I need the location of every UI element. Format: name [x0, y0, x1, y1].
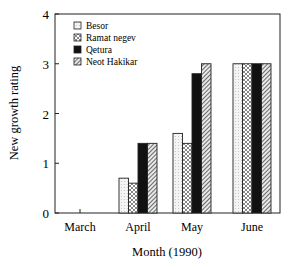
- legend: BesorRamat negevQeturaNeot Hakikar: [74, 21, 138, 67]
- legend-label: Neot Hakikar: [86, 57, 138, 67]
- y-tick-label: 3: [43, 57, 50, 72]
- bar-qetura: [192, 74, 202, 213]
- legend-label: Qetura: [86, 45, 113, 55]
- x-axis-title: Month (1990): [132, 245, 202, 259]
- y-tick-label: 4: [43, 7, 50, 22]
- bar-chart: 01234 MarchAprilMayJune BesorRamat negev…: [0, 0, 295, 267]
- bar-besor: [173, 133, 183, 213]
- bar-neot-hakikar: [148, 143, 158, 213]
- legend-swatch-icon: [74, 58, 81, 65]
- bar-ramat-negev: [129, 183, 139, 213]
- x-tick-label: April: [125, 220, 151, 234]
- bar-besor: [233, 64, 243, 213]
- legend-label: Ramat negev: [86, 33, 136, 43]
- y-axis-title: New growth rating: [7, 65, 21, 160]
- x-tick-label: March: [64, 220, 95, 234]
- bar-qetura: [138, 143, 148, 213]
- y-tick-label: 0: [43, 206, 50, 221]
- bar-neot-hakikar: [262, 64, 272, 213]
- y-tick-label: 1: [43, 156, 50, 171]
- y-tick-label: 2: [43, 107, 50, 122]
- legend-label: Besor: [86, 21, 109, 31]
- x-tick-label: June: [241, 220, 263, 234]
- bar-ramat-negev: [243, 64, 253, 213]
- bar-qetura: [252, 64, 262, 213]
- legend-swatch-icon: [74, 22, 81, 29]
- bar-neot-hakikar: [202, 64, 212, 213]
- bars-group: [119, 64, 271, 213]
- x-tick-label: May: [181, 220, 203, 234]
- bar-besor: [119, 178, 129, 213]
- bar-ramat-negev: [183, 143, 193, 213]
- y-axis: 01234: [43, 7, 60, 221]
- legend-swatch-icon: [74, 46, 81, 53]
- legend-swatch-icon: [74, 34, 81, 41]
